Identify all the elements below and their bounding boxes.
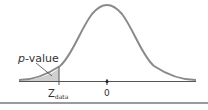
- z-data-label: Zdata: [48, 89, 68, 100]
- zero-point: [106, 80, 109, 83]
- zero-label: 0: [104, 89, 110, 98]
- z-sub: data: [55, 93, 69, 100]
- z-main: Z: [48, 88, 55, 99]
- p-value-label: p-value: [18, 53, 59, 64]
- bottom-divider: [0, 102, 208, 104]
- bell-curve: [19, 5, 196, 80]
- p-value-rest: -value: [25, 52, 59, 65]
- p-italic: p: [18, 52, 25, 65]
